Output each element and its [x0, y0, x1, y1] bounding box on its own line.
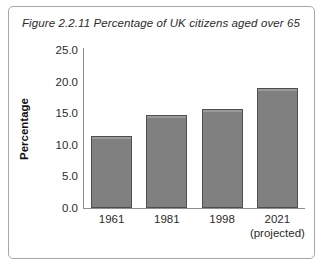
bar-highlight: [92, 137, 131, 139]
x-tick-label: 1961: [99, 213, 125, 225]
bar-2021: [257, 88, 298, 208]
x-tick-label: 2021: [265, 213, 291, 225]
bar-highlight: [258, 89, 297, 91]
bar-highlight: [203, 110, 242, 112]
bar-1998: [202, 109, 243, 208]
figure-caption: Figure 2.2.11 Percentage of UK citizens …: [22, 17, 300, 29]
bar-1961: [91, 136, 132, 208]
x-axis-line: [83, 208, 305, 209]
y-tick-label: 10.0: [56, 139, 78, 151]
x-tick-label: 1981: [154, 213, 180, 225]
y-tick-label: 25.0: [56, 44, 78, 56]
x-tick-2021: 2021 (projected): [237, 212, 317, 240]
y-tick-label: 20.0: [56, 76, 78, 88]
figure-container: Figure 2.2.11 Percentage of UK citizens …: [0, 0, 329, 271]
plot-area: 25.0 20.0 15.0 10.0 5.0 0.0: [84, 50, 305, 208]
y-tick-label: 15.0: [56, 107, 78, 119]
x-tick-label: 1998: [209, 213, 235, 225]
x-tick-sublabel: (projected): [237, 226, 317, 240]
bar-highlight: [147, 116, 186, 118]
bar-1981: [146, 115, 187, 208]
y-axis-title: Percentage: [18, 98, 30, 160]
y-tick-label: 5.0: [62, 170, 78, 182]
